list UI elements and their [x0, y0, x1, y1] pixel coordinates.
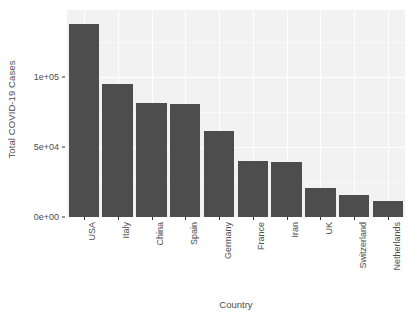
y-axis-tick-label: 1e+05 [34, 72, 59, 82]
x-axis-tick-label-netherlands: Netherlands [392, 222, 402, 271]
x-axis-tick-label-china: China [155, 222, 165, 246]
y-axis-tick-mark [62, 77, 65, 78]
gridline-vertical [354, 10, 355, 217]
y-axis-title: Total COVID-19 Cases [0, 0, 22, 218]
x-axis-tick-mark [388, 217, 389, 220]
bar [102, 84, 132, 217]
x-axis-tick-mark [287, 217, 288, 220]
bar [170, 104, 200, 217]
bar [204, 131, 234, 217]
plot-panel [67, 10, 405, 217]
x-axis-tick-label-italy: Italy [121, 222, 131, 239]
x-axis-tick-mark [354, 217, 355, 220]
x-axis-tick-mark [320, 217, 321, 220]
y-axis-tick-mark [62, 217, 65, 218]
x-axis-tick-label-switzerland: Switzerland [358, 222, 368, 269]
y-axis-tick-label: 0e+00 [34, 212, 59, 222]
bar [238, 161, 268, 217]
bar-chart: Total COVID-19 Cases 0e+005e+041e+05 USA… [0, 0, 419, 320]
y-axis-tick-label: 5e+04 [34, 142, 59, 152]
bar [373, 201, 403, 217]
x-axis-tick-label-uk: UK [324, 222, 334, 235]
x-axis-title: Country [67, 299, 405, 310]
x-axis-tick-label-france: France [256, 222, 266, 250]
bar [136, 103, 166, 217]
y-axis-tick-mark [62, 147, 65, 148]
y-axis-tick-labels: 0e+005e+041e+05 [22, 0, 65, 320]
bar [339, 195, 369, 217]
bar [271, 162, 301, 217]
x-axis-tick-label-spain: Spain [189, 222, 199, 245]
x-axis-tick-labels: USAItalyChinaSpainGermanyFranceIranUKSwi… [67, 217, 405, 297]
bar [305, 188, 335, 217]
gridline-vertical [388, 10, 389, 217]
x-axis-tick-label-iran: Iran [290, 222, 300, 238]
bar [69, 24, 99, 217]
x-axis-tick-mark [118, 217, 119, 220]
x-axis-tick-mark [84, 217, 85, 220]
gridline-vertical [320, 10, 321, 217]
x-axis-tick-mark [253, 217, 254, 220]
x-axis-tick-label-germany: Germany [223, 222, 233, 259]
x-axis-tick-mark [185, 217, 186, 220]
x-axis-tick-mark [152, 217, 153, 220]
x-axis-tick-mark [219, 217, 220, 220]
x-axis-tick-label-usa: USA [87, 222, 97, 241]
y-axis-title-text: Total COVID-19 Cases [6, 60, 17, 158]
